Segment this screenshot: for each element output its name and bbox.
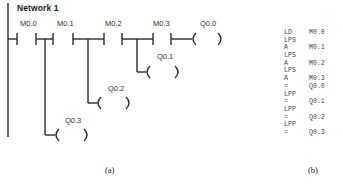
coil-label-q0-0: Q0.0	[200, 20, 216, 28]
stl-row: LPS	[284, 37, 339, 45]
coil-label-q0-1: Q0.1	[157, 53, 173, 61]
coil-q0-1	[147, 66, 178, 78]
stl-row: =Q0.2	[284, 114, 339, 122]
coil-label-q0-2: Q0.2	[108, 85, 124, 93]
caption-a: (a)	[105, 165, 114, 175]
contact-label-m0-3: M0.3	[153, 20, 170, 28]
contact-label-m0-0: M0.0	[20, 20, 37, 28]
network-title: Network 1	[17, 3, 59, 13]
caption-b: (b)	[308, 165, 318, 175]
stl-row: LPS	[284, 52, 339, 60]
coil-q0-3	[56, 129, 87, 141]
statement-list: LDM0.0 LPS AM0.1 LPS AM0.2 LPS AM0.3 =Q0…	[284, 29, 339, 137]
stl-row: AM0.3	[284, 75, 339, 83]
contact-m0-2	[104, 33, 122, 45]
coil-q0-2	[98, 97, 129, 109]
stl-row: =Q0.3	[284, 129, 339, 137]
stl-row: LPS	[284, 67, 339, 75]
contact-label-m0-1: M0.1	[57, 20, 74, 28]
coil-q0-0	[193, 33, 221, 45]
stl-row: AM0.2	[284, 60, 339, 68]
contact-label-m0-2: M0.2	[105, 20, 122, 28]
stl-row: LPP	[284, 106, 339, 114]
contact-m0-1	[53, 33, 73, 45]
coil-label-q0-3: Q0.3	[65, 117, 81, 125]
stl-row: =Q0.0	[284, 83, 339, 91]
stl-row: LPP	[284, 121, 339, 129]
contact-m0-0	[17, 33, 36, 45]
stl-row: AM0.1	[284, 44, 339, 52]
stl-row: LPP	[284, 91, 339, 99]
stl-row: =Q0.1	[284, 98, 339, 106]
contact-m0-3	[153, 33, 171, 45]
stl-row: LDM0.0	[284, 29, 339, 37]
